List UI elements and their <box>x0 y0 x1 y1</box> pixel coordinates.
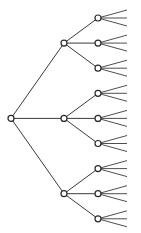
node-c <box>61 191 67 197</box>
leaf-edge-c1-1 <box>98 161 127 169</box>
leaf-edge-b2-3 <box>98 118 127 126</box>
leaf-edge-b3-3 <box>98 144 127 152</box>
leaf-edge-b3-1 <box>98 136 127 144</box>
node-c2 <box>95 191 101 197</box>
leaf-edge-c2-3 <box>98 194 127 202</box>
leaf-edge-c3-1 <box>98 211 127 219</box>
leaf-edge-c2-1 <box>98 186 127 194</box>
node-c1 <box>95 166 101 172</box>
leaf-edge-a3-1 <box>98 60 127 68</box>
edge-b-b1 <box>64 93 98 118</box>
node-a2 <box>95 40 101 46</box>
root-node <box>8 115 14 121</box>
leaf-edge-b1-1 <box>98 85 127 93</box>
leaf-edge-a2-3 <box>98 43 127 51</box>
edge-a-a3 <box>64 43 98 68</box>
tree-edges <box>11 10 127 227</box>
node-b3 <box>95 141 101 147</box>
node-a1 <box>95 15 101 21</box>
edge-root-c <box>11 118 64 193</box>
edge-root-a <box>11 43 64 118</box>
node-b2 <box>95 115 101 121</box>
leaf-edge-a2-1 <box>98 35 127 43</box>
edge-b-b3 <box>64 118 98 143</box>
node-a3 <box>95 65 101 71</box>
node-a <box>61 40 67 46</box>
leaf-edge-a3-3 <box>98 68 127 76</box>
leaf-edge-b1-3 <box>98 93 127 101</box>
edge-c-c3 <box>64 194 98 219</box>
leaf-edge-b2-1 <box>98 110 127 118</box>
node-b1 <box>95 90 101 96</box>
leaf-edge-a1-3 <box>98 18 127 26</box>
leaf-edge-c3-3 <box>98 219 127 227</box>
node-c3 <box>95 216 101 222</box>
leaf-edge-a1-1 <box>98 10 127 18</box>
leaf-edge-c1-3 <box>98 169 127 177</box>
tree-diagram <box>0 0 141 233</box>
edge-c-c1 <box>64 169 98 194</box>
edge-a-a1 <box>64 18 98 43</box>
node-b <box>61 115 67 121</box>
